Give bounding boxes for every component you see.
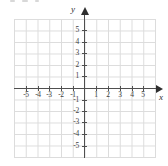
y-tick-label: 5 — [63, 26, 79, 34]
y-tick-label: -5 — [63, 142, 79, 150]
y-axis-line — [84, 13, 85, 158]
coordinate-plane-figure: -5 -4 -3 -2 -1 1 2 3 4 5 5 4 3 2 1 -1 -2… — [0, 0, 168, 166]
y-tick — [82, 42, 87, 43]
y-tick — [82, 30, 87, 31]
y-tick — [82, 65, 87, 66]
y-axis-label: y — [71, 5, 75, 14]
y-tick — [82, 76, 87, 77]
y-tick-label: -4 — [63, 130, 79, 138]
y-tick — [82, 100, 87, 101]
y-tick-label: -2 — [63, 107, 79, 115]
y-tick-label: -1 — [63, 96, 79, 104]
x-tick-label: 5 — [135, 91, 151, 99]
y-tick-label: 3 — [63, 49, 79, 57]
y-tick-label: 4 — [63, 38, 79, 46]
cropped-text-fragment — [22, 0, 28, 2]
x-axis-line — [14, 88, 158, 89]
y-axis-arrow-icon — [81, 7, 89, 15]
y-tick — [82, 134, 87, 135]
y-tick-label: -3 — [63, 118, 79, 126]
y-tick — [82, 111, 87, 112]
cropped-text-fragment — [10, 0, 15, 2]
cropped-text-fragment — [35, 0, 39, 2]
y-tick-label: 2 — [63, 61, 79, 69]
x-axis-label: x — [159, 93, 163, 102]
y-tick — [82, 146, 87, 147]
y-tick-label: 1 — [63, 72, 79, 80]
y-tick — [82, 53, 87, 54]
y-tick — [82, 122, 87, 123]
